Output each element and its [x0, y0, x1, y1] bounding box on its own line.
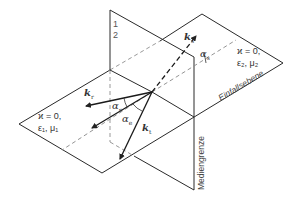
k-t-label: kt	[142, 123, 151, 135]
wave-vectors	[86, 36, 196, 159]
k-s-label: ks	[184, 32, 194, 44]
k-s-vector	[152, 36, 196, 92]
alpha-r-label: αr	[112, 101, 122, 113]
alpha-e-symbol: α	[122, 113, 129, 124]
k-r-subscript: r	[91, 93, 94, 100]
alpha-e-subscript: e	[129, 119, 133, 126]
medium-2-props: ϰ = 0, ε₂, μ₂	[237, 47, 260, 68]
side-number-2: 2	[113, 31, 118, 40]
alpha-r-subscript: r	[119, 106, 122, 113]
boundary-plane	[110, 10, 194, 190]
alpha-e-label: αe	[122, 114, 132, 126]
k-s-subscript: s	[191, 37, 194, 44]
medium-2-kappa: ϰ = 0,	[237, 47, 260, 56]
k-t-symbol: k	[142, 122, 149, 133]
alpha-s-symbol: α	[200, 48, 207, 59]
medium-1-props: ϰ = 0, ε₁, μ₁	[38, 112, 61, 133]
alpha-s-subscript: s	[207, 54, 210, 61]
k-r-symbol: k	[84, 87, 91, 98]
side-number-1: 1	[113, 20, 118, 29]
boundary-plane-label: Mediengrenze	[197, 136, 206, 190]
medium-1-eps-mu: ε₁, μ₁	[38, 124, 61, 133]
medium-2-eps-mu: ε₂, μ₂	[237, 59, 260, 68]
alpha-s-label: αs	[200, 49, 210, 61]
incidence-diagram	[0, 0, 302, 205]
alpha-r-symbol: α	[112, 100, 119, 111]
k-r-label: kr	[84, 88, 94, 100]
k-s-symbol: k	[184, 31, 191, 42]
k-t-subscript: t	[149, 128, 151, 135]
medium-1-kappa: ϰ = 0,	[38, 112, 61, 121]
